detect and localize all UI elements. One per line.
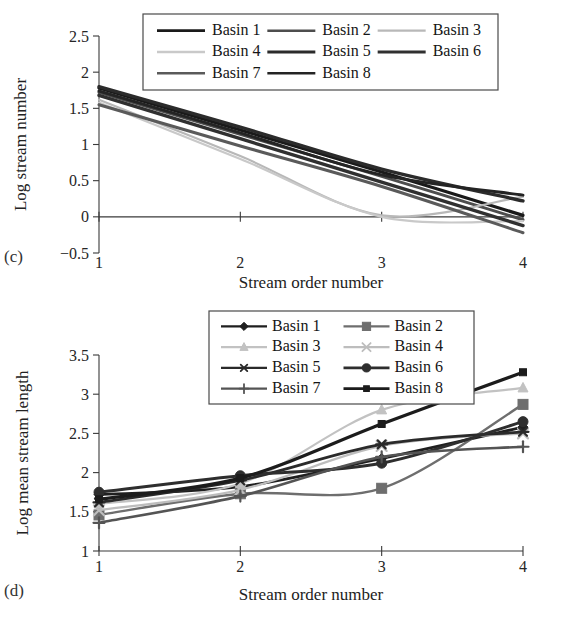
legend-label: Basin 5 (272, 358, 320, 375)
x-tick-label: 2 (236, 558, 244, 575)
y-tick-label: 3.5 (69, 347, 89, 364)
y-tick-label: 1 (81, 543, 89, 560)
panel-tag: (c) (4, 247, 23, 266)
x-tick-label: 1 (95, 254, 103, 271)
legend-label: Basin 6 (395, 358, 443, 375)
series-line-basin-6 (99, 422, 523, 493)
legend-label: Basin 4 (212, 42, 260, 59)
x-tick-label: 3 (378, 558, 386, 575)
legend-label: Basin 1 (212, 21, 260, 38)
x-tick-label: 4 (519, 254, 527, 271)
x-axis-title: Stream order number (239, 585, 384, 604)
legend-label: Basin 2 (322, 21, 370, 38)
x-tick-label: 3 (378, 254, 386, 271)
y-tick-label: 2.5 (69, 425, 89, 442)
series-marker-circle (518, 417, 528, 427)
series-line-basin-1 (99, 88, 523, 215)
series-marker-square (518, 399, 528, 409)
y-axis-title: Log mean stream length (13, 370, 32, 535)
series-marker-small-square (378, 420, 385, 427)
y-axis-title: Log stream number (11, 78, 30, 211)
legend-label: Basin 3 (272, 337, 320, 354)
series-line-basin-7 (99, 105, 523, 233)
series-marker-square (362, 322, 370, 330)
series-marker-square (377, 483, 387, 493)
series-marker-small-square (237, 475, 244, 482)
series-marker-plus (518, 441, 529, 452)
legend-label: Basin 1 (272, 317, 320, 334)
legend-label: Basin 8 (395, 379, 443, 396)
series-marker-triangle (518, 382, 528, 392)
y-tick-label: 2 (81, 464, 89, 481)
legend-label: Basin 4 (395, 337, 443, 354)
y-tick-label: 2 (81, 64, 89, 81)
x-axis-title: Stream order number (239, 273, 384, 292)
series-marker-small-square (96, 496, 103, 503)
figure-container: −0.500.511.522.51234Stream order numberL… (0, 0, 562, 633)
legend-label: Basin 7 (212, 64, 260, 81)
y-tick-label: 3 (81, 386, 89, 403)
y-tick-label: 0.5 (69, 172, 89, 189)
legend-label: Basin 8 (322, 64, 370, 81)
chart-c-svg: −0.500.511.522.51234Stream order numberL… (0, 0, 562, 300)
panel-d: 11.522.533.51234Stream order numberLog m… (0, 300, 562, 633)
panel-tag: (d) (4, 581, 24, 600)
series-marker-circle (362, 364, 370, 372)
y-tick-label: 0 (81, 208, 89, 225)
series-marker-small-square (364, 386, 370, 392)
x-tick-label: 4 (519, 558, 527, 575)
legend-label: Basin 3 (433, 21, 481, 38)
y-tick-label: −0.5 (60, 245, 89, 262)
series-line-basin-6 (99, 95, 523, 225)
chart-d-svg: 11.522.533.51234Stream order numberLog m… (0, 300, 562, 633)
y-tick-label: 1.5 (69, 503, 89, 520)
x-tick-label: 1 (95, 558, 103, 575)
series-marker-small-square (520, 369, 527, 376)
legend-label: Basin 2 (395, 317, 443, 334)
legend-label: Basin 5 (322, 42, 370, 59)
y-tick-label: 1.5 (69, 100, 89, 117)
y-tick-label: 1 (81, 136, 89, 153)
legend-label: Basin 7 (272, 379, 320, 396)
legend-label: Basin 6 (433, 42, 481, 59)
panel-c: −0.500.511.522.51234Stream order numberL… (0, 0, 562, 300)
x-tick-label: 2 (236, 254, 244, 271)
y-tick-label: 2.5 (69, 28, 89, 45)
series-line-basin-5 (99, 87, 523, 201)
